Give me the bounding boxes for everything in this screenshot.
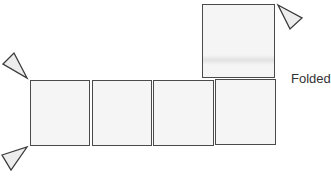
folded-label: Folded <box>291 71 331 86</box>
triangle-top-left-icon <box>3 53 27 78</box>
markers-layer <box>0 0 331 178</box>
triangle-bottom-left-icon <box>2 147 27 170</box>
triangle-top-right-icon <box>278 5 302 29</box>
